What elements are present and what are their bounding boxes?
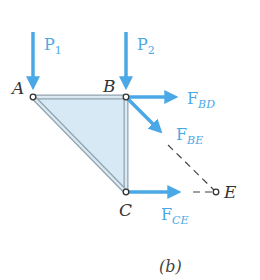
label-joint-c: C [119,200,132,220]
force-arrow-fbe [126,97,158,129]
joint-pin-c [123,189,129,195]
label-p1: P1 [44,35,62,57]
label-fbe: FBE [176,125,203,147]
label-joint-e: E [223,182,237,202]
joint-pin-a [30,94,36,100]
label-joint-a: A [10,78,24,98]
label-fbd: FBD [187,89,215,111]
truss-section [33,97,126,192]
label-fce: FCE [161,205,189,227]
figure-caption: (b) [159,257,182,276]
truss-free-body-diagram: P1 P2 FBD FBE FCE A B C E (b) [0,0,260,280]
joint-pin-e [213,189,219,195]
dashed-member-be [168,145,214,192]
joint-pin-b [123,94,129,100]
label-joint-b: B [102,76,116,96]
label-p2: P2 [137,35,155,57]
